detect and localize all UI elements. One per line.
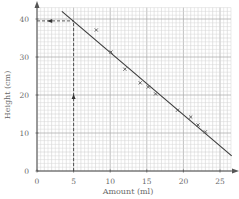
x-tick-label: 20 <box>179 177 189 186</box>
y-tick-label: 0 <box>24 167 29 176</box>
data-point <box>95 28 98 31</box>
x-tick-label: 0 <box>35 177 40 186</box>
data-point <box>139 81 142 84</box>
x-tick-label: 25 <box>215 177 225 186</box>
y-tick-label: 20 <box>19 91 29 100</box>
grid <box>37 8 231 171</box>
y-axis-arrow-icon <box>35 1 40 8</box>
x-axis-arrow-icon <box>232 169 239 174</box>
y-tick-label: 10 <box>19 129 29 138</box>
y-tick-label: 40 <box>19 15 29 24</box>
x-tick-label: 10 <box>105 177 115 186</box>
x-tick-label: 5 <box>71 177 76 186</box>
y-axis-label: Height (cm) <box>3 71 12 120</box>
scatter-chart: 0510152025010203040 Amount (ml) Height (… <box>0 0 239 199</box>
x-axis-label: Amount (ml) <box>102 187 154 196</box>
y-tick-label: 30 <box>19 53 29 62</box>
x-tick-label: 15 <box>142 177 152 186</box>
